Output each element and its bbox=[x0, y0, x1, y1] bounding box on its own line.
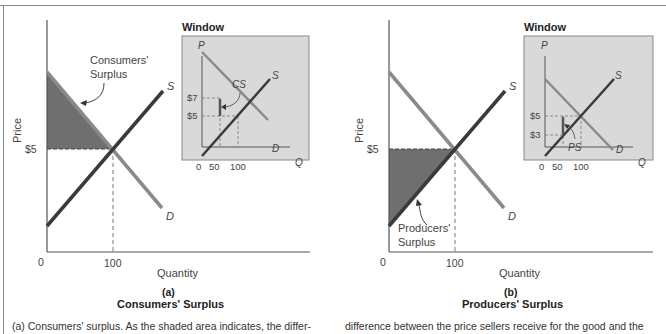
panel-a-window-q-label: Q bbox=[295, 157, 303, 168]
panel-a-window-cs-label: CS bbox=[232, 79, 246, 90]
panel-b-origin-label: 0 bbox=[380, 256, 386, 268]
panel-b-window-q-label: Q bbox=[638, 157, 646, 168]
panel-b-window-d-label: D bbox=[616, 144, 623, 155]
panel-b-supply-label: S bbox=[509, 80, 516, 92]
panel-b-y-axis-label: Price bbox=[353, 118, 365, 143]
panel-a-window bbox=[182, 36, 309, 160]
panel-a-window-q-tick-0: 0 bbox=[196, 161, 201, 172]
panel-a-window-q-tick-100: 100 bbox=[230, 161, 246, 172]
panel-b-window-p-label: P bbox=[541, 40, 548, 51]
panel-a-window-q-tick-50: 50 bbox=[209, 161, 220, 172]
panel-a-quantity-tick: 100 bbox=[104, 257, 122, 269]
panel-b-window-q-tick-100: 100 bbox=[573, 161, 589, 172]
panel-a-x-axis-label: Quantity bbox=[157, 267, 198, 279]
panel-b-x-axis-label: Quantity bbox=[499, 267, 540, 279]
panel-b-title: Producers' Surplus bbox=[462, 298, 563, 310]
panel-a-origin-label: 0 bbox=[38, 256, 44, 268]
panel-a-window-d-label: D bbox=[272, 143, 279, 154]
panel-b-demand-label: D bbox=[508, 210, 516, 222]
panel-a-window-title: Window bbox=[182, 21, 224, 33]
panel-b-window-title: Window bbox=[524, 21, 566, 33]
panel-a-letter: (a) bbox=[162, 286, 175, 298]
panel-b-window-price-tick-3: $3 bbox=[530, 129, 541, 140]
panel-a-window-p-label: P bbox=[198, 40, 205, 51]
panel-a-price-tick: $5 bbox=[25, 143, 37, 155]
panel-b-window-q-tick-50: 50 bbox=[552, 161, 563, 172]
panel-a-title: Consumers' Surplus bbox=[117, 298, 224, 310]
panel-a-surplus-annotation-line1: Consumers' bbox=[90, 54, 148, 66]
panel-a-demand-label: D bbox=[166, 210, 174, 222]
panel-b-window-q-tick-0: 0 bbox=[539, 161, 544, 172]
panel-b-window bbox=[524, 36, 653, 160]
panel-a-y-axis-label: Price bbox=[11, 118, 23, 143]
panel-b-price-tick: $5 bbox=[367, 143, 379, 155]
panel-a-window-price-tick-5: $5 bbox=[187, 110, 198, 121]
panel-b-window-ps-label: PS bbox=[568, 142, 581, 153]
panel-b-surplus-annotation-line1: Producers' bbox=[398, 222, 450, 234]
panel-b-surplus-annotation-line2: Surplus bbox=[398, 236, 435, 248]
panel-a-surplus-annotation-line2: Surplus bbox=[90, 68, 127, 80]
figure-graphics bbox=[0, 0, 666, 334]
caption-right: difference between the price sellers rec… bbox=[345, 320, 644, 332]
panel-b-window-s-label: S bbox=[615, 70, 622, 81]
panel-b-window-price-tick-5: $5 bbox=[530, 110, 541, 121]
panel-b-quantity-tick: 100 bbox=[446, 257, 464, 269]
panel-a-window-price-tick-7: $7 bbox=[187, 92, 198, 103]
caption-left: (a) Consumers' surplus. As the shaded ar… bbox=[12, 320, 311, 332]
panel-b-letter: (b) bbox=[504, 286, 517, 298]
panel-a-supply-label: S bbox=[167, 80, 174, 92]
panel-a-window-s-label: S bbox=[272, 70, 279, 81]
